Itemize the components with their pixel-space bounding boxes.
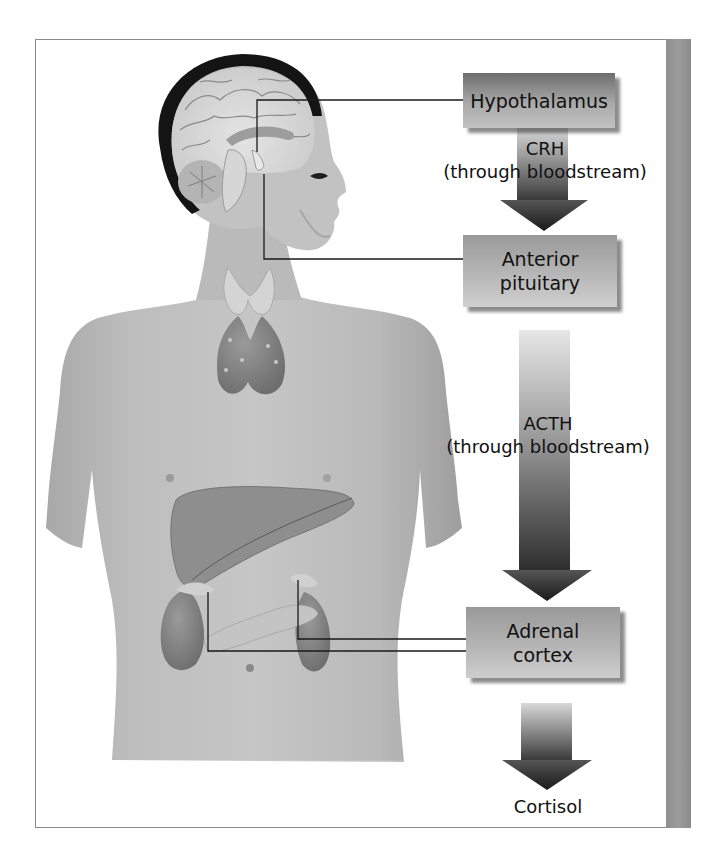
acth-hormone-name: ACTH [420, 412, 676, 435]
acth-arrow [502, 330, 592, 601]
anterior-pituitary-box: Anterior pituitary [463, 235, 617, 307]
adrenal-cortex-label-line1: Adrenal [507, 619, 580, 643]
adrenal-cortex-label-line2: cortex [507, 643, 580, 667]
crh-hormone-name: CRH [430, 137, 660, 160]
crh-label: CRH (through bloodstream) [430, 137, 660, 183]
hypothalamus-box: Hypothalamus [463, 73, 615, 128]
anterior-pituitary-label-line2: pituitary [500, 271, 580, 295]
acth-transport-note: (through bloodstream) [420, 435, 676, 458]
crh-transport-note: (through bloodstream) [430, 160, 660, 183]
acth-label: ACTH (through bloodstream) [420, 412, 676, 458]
anterior-pituitary-label-line1: Anterior [500, 247, 580, 271]
head [158, 54, 346, 300]
adrenal-cortex-box: Adrenal cortex [466, 607, 620, 678]
cortisol-label: Cortisol [498, 795, 598, 818]
cortisol-arrow [502, 703, 592, 790]
hypothalamus-label: Hypothalamus [470, 89, 608, 113]
